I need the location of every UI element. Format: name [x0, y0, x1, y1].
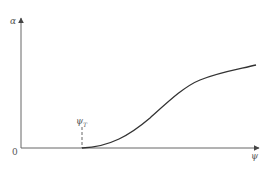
- response-curve: [82, 65, 256, 148]
- origin-label: 0: [12, 148, 18, 157]
- x-axis-label: ψ: [251, 152, 258, 161]
- y-axis-label: α: [10, 17, 16, 26]
- threshold-label: ψT: [76, 117, 87, 128]
- threshold-symbol: ψ: [76, 116, 83, 126]
- diagram-canvas: [0, 0, 278, 173]
- threshold-subscript: T: [83, 121, 87, 128]
